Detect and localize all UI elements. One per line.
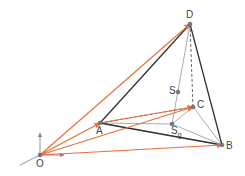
edge-D-C [190,24,193,107]
diagram-canvas [0,0,245,176]
point-O [38,153,42,157]
label-B: B [226,141,233,151]
edge-A-B [100,123,222,145]
point-S [176,90,180,94]
line-A-Sg [100,123,172,124]
point-C [191,105,195,109]
label-D: D [186,10,193,20]
edge-A-D [100,24,190,123]
label-S: S [169,86,176,96]
label-C: C [197,100,204,110]
vector-A-C [100,107,193,123]
point-B [220,143,224,147]
tetrahedron-edges [100,24,222,145]
label-O: O [36,159,44,169]
label-Sg: Sg [171,126,182,138]
point-D [188,22,192,26]
tetrahedron-diagram: OABCDSSg [0,0,245,176]
label-A: A [96,126,103,136]
edge-D-B [190,24,222,145]
line-C-B [193,107,222,145]
